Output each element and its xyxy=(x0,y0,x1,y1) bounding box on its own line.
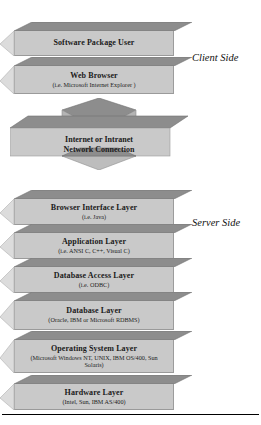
block-title: Web Browser xyxy=(70,71,117,81)
block-top-face xyxy=(14,375,192,384)
bottom-divider xyxy=(2,414,259,415)
block-subtitle: (Microsoft Windows NT, UNIX, IBM OS/400,… xyxy=(21,354,167,368)
block-operating-system-layer: Operating System Layer (Microsoft Window… xyxy=(14,331,174,373)
block-browser-interface-layer: Browser Interface Layer (i.e. Java) xyxy=(14,190,174,225)
block-side-face-shape xyxy=(0,66,15,94)
block-subtitle: (Oracle, IBM or Microsoft RDBMS) xyxy=(48,316,139,323)
block-subtitle: (i.e. ANSI C, C++, Visual C) xyxy=(58,247,130,254)
block-top-face-shape xyxy=(14,375,192,384)
block-front-face: Operating System Layer (Microsoft Window… xyxy=(14,340,174,373)
block-top-face xyxy=(14,224,192,233)
block-side-face-shape xyxy=(0,267,15,293)
block-title: Application Layer xyxy=(62,237,126,247)
block-top-face-shape xyxy=(14,258,192,267)
block-title: Software Package User xyxy=(53,38,134,48)
block-title: Database Access Layer xyxy=(54,271,134,281)
block-database-layer: Database Layer (Oracle, IBM or Microsoft… xyxy=(14,292,174,330)
block-software-package-user: Software Package User xyxy=(14,22,174,56)
block-top-face xyxy=(14,331,192,340)
block-title: Operating System Layer xyxy=(51,344,137,354)
block-subtitle: (i.e. Java) xyxy=(82,213,106,220)
block-title: Browser Interface Layer xyxy=(51,203,137,213)
block-top-face-shape xyxy=(14,57,192,66)
block-side-face-shape xyxy=(0,233,15,259)
block-top-face-shape xyxy=(14,331,192,340)
block-top-face xyxy=(14,292,192,301)
block-top-face-shape xyxy=(14,224,192,233)
bidirectional-arrow-shape xyxy=(10,98,188,170)
block-title: Database Layer xyxy=(66,306,121,316)
block-top-face xyxy=(14,190,192,199)
block-top-face xyxy=(14,57,192,66)
block-side-face-shape xyxy=(0,340,15,373)
block-top-face xyxy=(14,258,192,267)
label-client-side: Client Side xyxy=(192,52,238,63)
block-front-face: Web Browser (i.e. Microsoft Internet Exp… xyxy=(14,66,174,94)
block-side-face-shape xyxy=(0,384,15,410)
block-top-face-shape xyxy=(14,292,192,301)
block-top-face-shape xyxy=(14,22,192,31)
block-subtitle: (Intel, Sun, IBM AS/400) xyxy=(62,398,125,405)
label-server-side: Server Side xyxy=(192,217,240,228)
block-hardware-layer: Hardware Layer (Intel, Sun, IBM AS/400) xyxy=(14,375,174,410)
block-subtitle: (i.e. Microsoft Internet Explorer ) xyxy=(52,81,135,88)
block-side-face-shape xyxy=(0,31,15,56)
block-subtitle: (i.e. ODBC) xyxy=(79,281,109,288)
block-front-face: Software Package User xyxy=(14,31,174,56)
block-side-face-shape xyxy=(0,301,15,330)
block-web-browser: Web Browser (i.e. Microsoft Internet Exp… xyxy=(14,57,174,94)
network-connector-internet-intranet: Internet or Intranet Network Connection xyxy=(10,98,188,170)
block-application-layer: Application Layer (i.e. ANSI C, C++, Vis… xyxy=(14,224,174,259)
block-top-face xyxy=(14,22,192,31)
block-front-face: Database Layer (Oracle, IBM or Microsoft… xyxy=(14,301,174,330)
block-front-face: Application Layer (i.e. ANSI C, C++, Vis… xyxy=(14,233,174,259)
block-front-face: Hardware Layer (Intel, Sun, IBM AS/400) xyxy=(14,384,174,410)
block-side-face-shape xyxy=(0,199,15,225)
architecture-diagram: Software Package User Web Browser (i.e. … xyxy=(0,0,261,425)
block-front-face: Database Access Layer (i.e. ODBC) xyxy=(14,267,174,293)
block-top-face-shape xyxy=(14,190,192,199)
block-title: Hardware Layer xyxy=(65,388,124,398)
block-front-face: Browser Interface Layer (i.e. Java) xyxy=(14,199,174,225)
block-database-access-layer: Database Access Layer (i.e. ODBC) xyxy=(14,258,174,293)
